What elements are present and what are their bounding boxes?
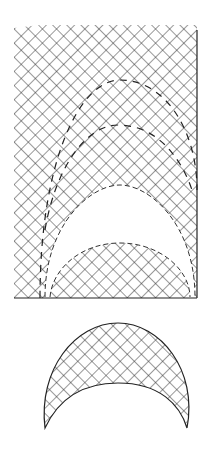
hatched-figure: [0, 0, 207, 449]
separate-crescent: [44, 323, 189, 428]
